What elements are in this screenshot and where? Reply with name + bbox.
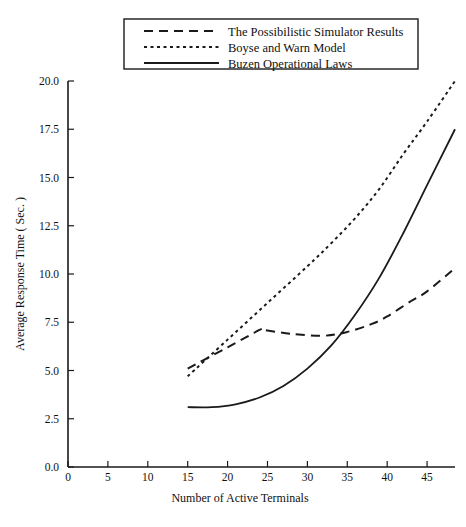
y-tick-label: 7.5	[45, 316, 60, 328]
y-tick-label: 20.0	[39, 75, 59, 87]
x-tick-label: 45	[421, 471, 433, 483]
y-axis-title: Average Response Time ( Sec. )	[13, 197, 27, 351]
chart-figure: The Possibilistic Simulator ResultsBoyse…	[0, 0, 466, 527]
chart-series	[188, 81, 455, 407]
y-tick-label: 10.0	[39, 268, 59, 280]
x-tick-label: 40	[381, 471, 393, 483]
chart-axes	[68, 81, 455, 467]
axis-ticks: 0.02.55.07.510.012.515.017.520.005101520…	[39, 75, 433, 483]
y-tick-label: 2.5	[45, 413, 60, 425]
series-line-3	[188, 129, 455, 407]
line-chart-canvas: The Possibilistic Simulator ResultsBoyse…	[0, 0, 466, 527]
series-line-2	[188, 81, 455, 376]
x-tick-label: 0	[65, 471, 71, 483]
y-tick-label: 15.0	[39, 172, 59, 184]
x-axis-title: Number of Active Terminals	[171, 491, 309, 505]
x-tick-label: 30	[302, 471, 314, 483]
x-tick-label: 20	[222, 471, 234, 483]
y-tick-label: 12.5	[39, 220, 59, 232]
legend-label-2: Boyse and Warn Model	[228, 41, 346, 55]
legend-label-1: The Possibilistic Simulator Results	[228, 25, 403, 39]
y-tick-label: 5.0	[45, 365, 60, 377]
y-tick-label: 0.0	[45, 461, 60, 473]
x-tick-label: 35	[342, 471, 354, 483]
legend-label-3: Buzen Operational Laws	[228, 57, 352, 71]
series-line-1	[188, 268, 455, 368]
x-tick-label: 5	[105, 471, 111, 483]
x-tick-label: 10	[142, 471, 154, 483]
x-tick-label: 15	[182, 471, 194, 483]
y-tick-label: 17.5	[39, 123, 59, 135]
chart-legend: The Possibilistic Simulator ResultsBoyse…	[124, 19, 418, 71]
x-tick-label: 25	[262, 471, 274, 483]
